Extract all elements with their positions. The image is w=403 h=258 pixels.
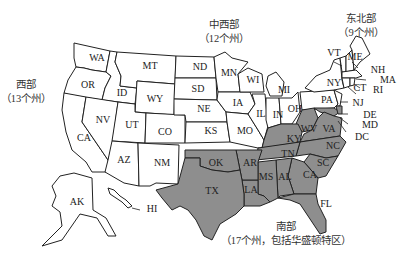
label-in: IN [273,110,284,120]
label-la: LA [244,185,257,195]
label-ri: RI [373,85,383,95]
label-id: ID [117,88,128,98]
label-ut: UT [125,120,138,130]
label-vt: VT [327,48,340,58]
label-me: ME [348,52,363,62]
label-dc: DC [355,132,369,142]
state-ma [342,70,362,78]
label-wa: WA [89,53,105,63]
state-ct [342,78,350,88]
region-northeast: 东北部 （9个州） [338,12,383,40]
label-fl: FL [320,199,332,209]
label-ny: NY [327,78,341,88]
state-ak [42,173,116,246]
label-il: IL [256,109,265,119]
label-nv: NV [96,115,110,125]
region-south: 南部 （17个州，包括华盛顿特区） [221,220,352,248]
label-wi: WI [247,75,260,85]
label-co: CO [158,127,172,137]
region-west: 西部 （13个州） [1,78,52,106]
label-hi: HI [147,204,158,214]
state-hi [108,188,132,208]
label-nc: NC [326,141,340,151]
region-south-name: 南部 [221,220,352,234]
label-ia: IA [233,98,244,108]
label-ok: OK [209,158,223,168]
label-tx: TX [205,186,218,196]
label-ar: AR [243,158,257,168]
label-ky: KY [287,134,301,144]
region-midwest-name: 中西部 [199,18,250,32]
label-ks: KS [205,126,218,136]
label-oh: OH [288,104,302,114]
region-midwest-count: （12个州） [199,32,250,46]
label-mo: MO [237,126,253,136]
label-az: AZ [117,155,130,165]
region-northeast-count: （9个州） [338,26,383,40]
label-sc: SC [317,158,329,168]
region-west-count: （13个州） [1,92,52,106]
label-ne: NE [197,104,210,114]
label-ga: CA [303,170,317,180]
label-al: AL [278,172,291,182]
label-va: VA [322,124,335,134]
label-ms: MS [259,172,273,182]
label-nd: ND [193,62,207,72]
region-south-count: （17个州，包括华盛顿特区） [221,234,352,248]
label-nj: NJ [352,98,363,108]
label-sd: SD [192,84,205,94]
region-midwest: 中西部 （12个州） [199,18,250,46]
label-ak: AK [70,197,84,207]
label-tn: TN [281,149,294,159]
label-md: MD [362,120,378,130]
region-west-name: 西部 [1,78,52,92]
label-nm: NM [154,158,170,168]
label-or: OR [81,80,95,90]
label-mn: MN [221,68,237,78]
label-pa: PA [321,95,333,105]
label-ct: CT [354,83,367,93]
label-ca: CA [77,133,91,143]
label-mt: MT [143,61,158,71]
label-wy: WY [147,94,164,104]
label-wv: WV [301,124,318,134]
region-northeast-name: 东北部 [338,12,383,26]
label-mi: MI [278,85,290,95]
